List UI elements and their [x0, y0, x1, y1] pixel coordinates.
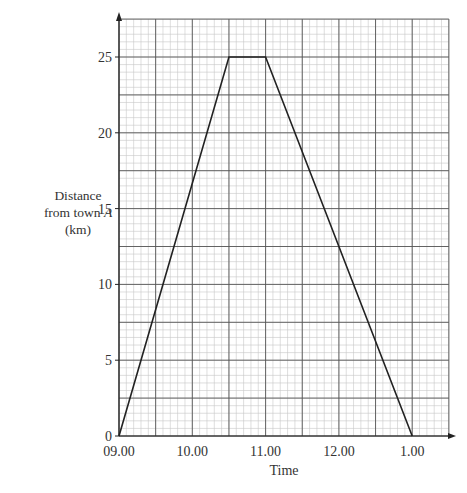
y-tick-label: 10: [98, 277, 112, 292]
y-tick-label: 5: [105, 353, 112, 368]
x-tick-label: 10.00: [177, 444, 209, 459]
y-axis-label-line-2: from town A: [28, 204, 128, 221]
y-axis-arrow-icon: [116, 12, 122, 21]
y-axis-label-line-1: Distance: [28, 187, 128, 204]
minor-grid: [119, 19, 449, 436]
y-axis-label: Distance from town A (km): [28, 187, 128, 238]
major-grid: [119, 19, 449, 436]
x-tick-labels: 09.0010.0011.0012.001.00: [103, 444, 424, 459]
y-tick-label: 20: [98, 126, 112, 141]
x-tick-label: 1.00: [400, 444, 425, 459]
x-tick-label: 09.00: [103, 444, 135, 459]
y-tick-label: 0: [105, 429, 112, 444]
x-axis-arrow-icon: [448, 433, 456, 439]
x-tick-label: 11.00: [250, 444, 281, 459]
y-tick-labels: 0510152025: [98, 50, 119, 444]
x-axis-label: Time: [269, 463, 298, 478]
y-tick-label: 25: [98, 50, 112, 65]
y-axis-label-line-3: (km): [28, 221, 128, 238]
distance-time-graph: 0510152025 09.0010.0011.0012.001.00 Time: [0, 0, 467, 493]
x-tick-label: 12.00: [323, 444, 355, 459]
